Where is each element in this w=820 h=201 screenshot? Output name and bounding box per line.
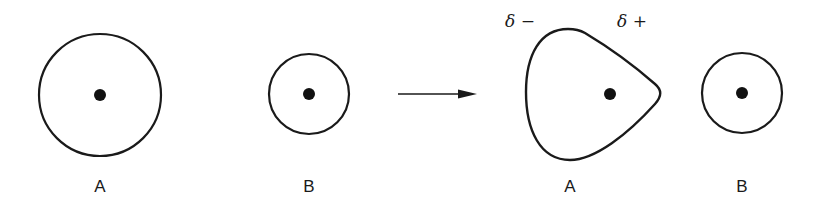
polarization-diagram: A B δ − δ + A B	[0, 0, 820, 201]
partial-negative-charge: δ −	[505, 11, 535, 31]
atom-b-after: B	[702, 53, 782, 196]
atom-b-before: B	[269, 54, 349, 196]
atom-label: B	[736, 177, 747, 196]
nucleus-dot	[604, 88, 616, 100]
nucleus-dot	[303, 88, 315, 100]
nucleus-dot	[736, 87, 748, 99]
distorted-electron-cloud	[526, 29, 660, 160]
atom-label: A	[94, 177, 106, 196]
transition-arrow-icon	[398, 90, 477, 99]
nucleus-dot	[94, 89, 106, 101]
atom-a-after: δ − δ + A	[505, 11, 660, 196]
partial-positive-charge: δ +	[617, 11, 647, 31]
atom-label: B	[303, 177, 314, 196]
atom-label: A	[564, 177, 576, 196]
atom-a-before: A	[39, 34, 161, 196]
